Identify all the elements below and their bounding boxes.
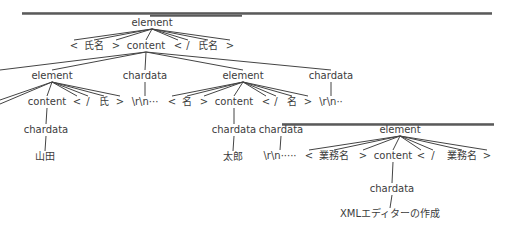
tree-node-e3-gt: >	[359, 150, 367, 162]
tree-edge	[45, 136, 46, 151]
tree-node-e1: element	[31, 70, 72, 82]
tree-edge	[334, 136, 400, 150]
tree-edge	[152, 29, 188, 40]
tree-node-e3-lt2: <	[417, 150, 425, 162]
tree-edge	[152, 29, 230, 40]
tree-edge	[400, 136, 487, 150]
tree-node-e3-name: 業務名	[319, 150, 349, 162]
tree-edge	[52, 82, 120, 96]
tree-node-e1-gt: >	[116, 96, 124, 108]
horizontal-rule	[22, 12, 492, 15]
tree-edge	[400, 136, 462, 150]
tree-node-e3-gt2: >	[483, 150, 491, 162]
tree-node-cd1: chardata	[123, 70, 167, 82]
tree-edge	[52, 82, 88, 96]
tree-node-e2-name: 名	[182, 96, 192, 108]
tree-node-r-content: content	[127, 40, 165, 52]
tree-node-e3-cd: chardata	[370, 183, 414, 195]
tree-node-e1-slash: /	[86, 96, 89, 108]
tree-node-e3: element	[379, 124, 420, 136]
tree-node-cd1-text: \r\n···	[132, 96, 159, 108]
tree-edge	[390, 195, 392, 208]
tree-node-e1-name: 氏	[99, 96, 109, 108]
tree-node-e3-lt: <	[305, 150, 313, 162]
tree-edge	[233, 136, 234, 151]
tree-node-e1-val: 山田	[35, 151, 55, 163]
tree-node-cd2-text: \r\n··	[319, 96, 343, 108]
parse-tree-diagram: element<氏名>content</氏名>elementchardatael…	[0, 0, 517, 228]
tree-node-r-name2: 氏名	[198, 40, 218, 52]
tree-edge	[309, 136, 400, 150]
tree-node-r-lt: <	[70, 40, 78, 52]
tree-edge	[243, 82, 308, 96]
tree-node-e3-content: content	[374, 150, 412, 162]
tree-node-e2-lt2: <	[262, 96, 270, 108]
tree-node-e2-name2: 名	[287, 96, 297, 108]
tree-node-r-slash: /	[186, 40, 189, 52]
tree-node-e2-gt: >	[200, 96, 208, 108]
tree-node-root: element	[131, 17, 172, 29]
tree-edge	[187, 82, 243, 96]
tree-node-r-lt2: <	[174, 40, 182, 52]
tree-edges	[0, 0, 517, 228]
tree-node-e2-val: 太郎	[223, 151, 243, 163]
tree-node-e1-lt: <	[73, 96, 81, 108]
tree-node-e2-gt2: >	[304, 96, 312, 108]
tree-node-e3-val: XMLエディターの作成	[340, 208, 440, 220]
tree-edge	[280, 136, 281, 150]
tree-edge	[0, 52, 146, 70]
tree-edge	[243, 82, 276, 96]
tree-node-cd2: chardata	[309, 70, 353, 82]
tree-node-cd3-text: \r\n·····	[263, 150, 296, 162]
tree-edge	[392, 162, 393, 183]
tree-node-e3-name2: 業務名	[447, 150, 477, 162]
tree-edge	[146, 52, 331, 70]
tree-edge	[46, 108, 47, 124]
tree-node-e2-lt: <	[168, 96, 176, 108]
tree-edge	[52, 52, 146, 70]
tree-node-e2-slash: /	[274, 96, 277, 108]
tree-node-e2-cd: chardata	[212, 124, 256, 136]
tree-node-e1-cd: chardata	[24, 124, 68, 136]
tree-node-r-gt: >	[112, 40, 120, 52]
tree-node-cd3: chardata	[259, 124, 303, 136]
tree-edge	[146, 52, 243, 70]
tree-edge	[243, 82, 292, 96]
tree-node-e1-content: content	[28, 96, 66, 108]
tree-edge	[400, 136, 433, 150]
tree-edge	[145, 52, 146, 70]
tree-node-e3-slash: /	[431, 150, 434, 162]
tree-node-e2-content: content	[215, 96, 253, 108]
tree-edge	[172, 82, 243, 96]
tree-edge	[74, 29, 152, 40]
tree-node-e2: element	[222, 70, 263, 82]
tree-node-r-name: 氏名	[84, 40, 104, 52]
tree-node-r-gt2: >	[226, 40, 234, 52]
